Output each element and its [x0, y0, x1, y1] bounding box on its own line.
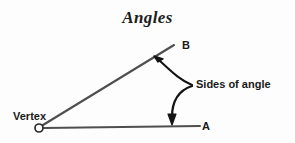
angles-figure: Angles B A Vertex Sides of angle	[0, 0, 295, 143]
ray-to-a	[44, 126, 200, 128]
point-label-a: A	[202, 120, 210, 132]
open-circle-icon	[35, 124, 43, 132]
curved-arrow-down-icon	[168, 114, 176, 125]
callout-curve-upper	[160, 61, 192, 85]
callout-curve-lower	[172, 86, 192, 117]
point-label-b: B	[182, 39, 190, 51]
vertex-label: Vertex	[13, 110, 46, 122]
sides-of-angle-label: Sides of angle	[196, 78, 271, 90]
